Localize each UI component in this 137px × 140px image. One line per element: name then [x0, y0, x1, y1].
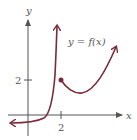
left-branch-rising [44, 26, 57, 118]
y-axis-label: y [25, 5, 32, 16]
closed-point-marker [59, 78, 64, 83]
right-branch-curve [61, 47, 116, 93]
function-graph: y x 2 2 y = f(x) [0, 0, 137, 140]
function-label: y = f(x) [67, 36, 106, 47]
x-tick-label-2: 2 [58, 122, 64, 133]
y-tick-label-2: 2 [15, 75, 21, 86]
x-axis-label: x [126, 110, 132, 121]
